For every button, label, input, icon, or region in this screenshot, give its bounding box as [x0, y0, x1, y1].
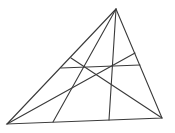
- geometry-diagram: [0, 0, 175, 133]
- cevian-lines: [7, 9, 162, 124]
- cevian-b: [7, 53, 135, 124]
- triangle-figure: [0, 0, 175, 133]
- transversal: [61, 65, 140, 68]
